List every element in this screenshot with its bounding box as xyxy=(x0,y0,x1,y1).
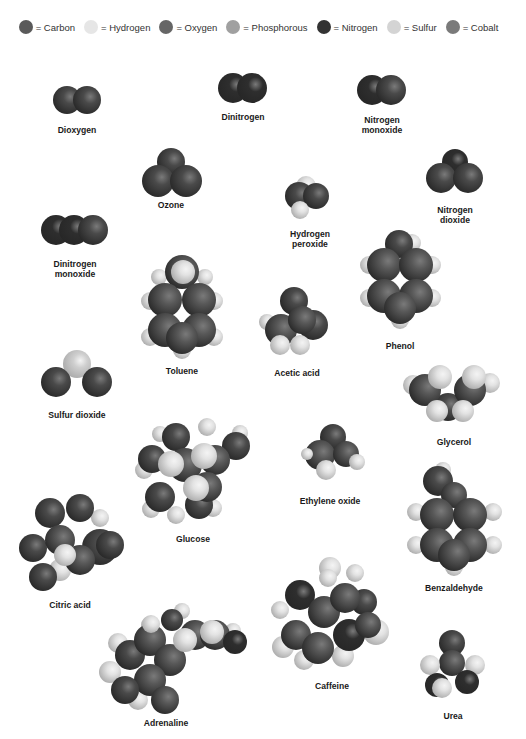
hydrogen-atom-icon xyxy=(349,454,365,470)
nitrogen-atom-icon xyxy=(237,73,267,103)
hydrogen-atom-icon xyxy=(151,269,167,285)
molecule-acetic-acid xyxy=(259,287,328,355)
hydrogen-atom-icon xyxy=(173,628,197,652)
oxygen-atom-icon xyxy=(453,163,483,193)
molecule-glucose xyxy=(135,418,250,524)
molecule-label: Nitrogen monoxide xyxy=(362,115,403,135)
hydrogen-atom-icon xyxy=(462,365,486,389)
molecule-label: Toluene xyxy=(166,366,198,376)
molecule-nitrogen-monoxide xyxy=(357,75,406,105)
molecule-label: Adrenaline xyxy=(144,718,188,728)
oxygen-atom-icon xyxy=(82,367,112,397)
hydrogen-atom-icon xyxy=(171,260,195,284)
carbon-atom-icon xyxy=(355,612,381,638)
molecules-svg xyxy=(0,0,526,739)
oxygen-atom-icon xyxy=(111,676,139,704)
oxygen-atom-icon xyxy=(41,367,71,397)
carbon-atom-icon xyxy=(420,498,454,532)
oxygen-atom-icon xyxy=(96,531,124,559)
carbon-atom-icon xyxy=(166,322,198,354)
molecule-label: Acetic acid xyxy=(274,368,319,378)
hydrogen-atom-icon xyxy=(420,655,440,675)
molecule-dinitrogen xyxy=(218,73,267,103)
hydrogen-atom-icon xyxy=(198,418,216,436)
hydrogen-atom-icon xyxy=(54,544,76,566)
molecule-citric-acid xyxy=(19,494,124,591)
oxygen-atom-icon xyxy=(426,163,456,193)
molecule-label: Benzaldehyde xyxy=(425,583,483,593)
carbon-atom-icon xyxy=(148,283,182,317)
oxygen-atom-icon xyxy=(35,498,65,528)
carbon-atom-icon xyxy=(384,292,416,324)
hydrogen-atom-icon xyxy=(316,460,336,480)
oxygen-atom-icon xyxy=(162,423,190,451)
carbon-atom-icon xyxy=(367,248,401,282)
oxygen-atom-icon xyxy=(29,563,57,591)
oxygen-atom-icon xyxy=(145,482,175,512)
molecule-label: Glucose xyxy=(176,534,210,544)
hydrogen-atom-icon xyxy=(158,451,184,477)
hydrogen-atom-icon xyxy=(142,615,160,633)
oxygen-atom-icon xyxy=(170,165,202,197)
oxygen-atom-icon xyxy=(376,75,406,105)
molecule-caffeine xyxy=(271,557,389,670)
molecule-label: Caffeine xyxy=(315,681,349,691)
oxygen-atom-icon xyxy=(142,165,174,197)
molecule-sulfur-dioxide xyxy=(41,350,112,397)
hydrogen-atom-icon xyxy=(301,448,313,460)
oxygen-atom-icon xyxy=(19,534,47,562)
molecule-ozone xyxy=(142,148,202,197)
oxygen-atom-icon xyxy=(78,215,108,245)
hydrogen-atom-icon xyxy=(426,400,448,422)
molecule-benzaldehyde xyxy=(407,462,502,576)
carbon-atom-icon xyxy=(151,686,179,714)
molecule-dioxygen xyxy=(53,86,101,114)
molecule-urea xyxy=(420,630,485,698)
molecule-phenol xyxy=(360,230,441,329)
hydrogen-atom-icon xyxy=(197,269,213,285)
oxygen-atom-icon xyxy=(73,86,101,114)
nitrogen-atom-icon xyxy=(455,670,479,694)
hydrogen-atom-icon xyxy=(191,443,217,469)
hydrogen-atom-icon xyxy=(432,678,452,698)
hydrogen-atom-icon xyxy=(183,475,209,501)
hydrogen-atom-icon xyxy=(167,506,185,524)
molecule-label: Dioxygen xyxy=(58,125,97,135)
hydrogen-atom-icon xyxy=(200,620,224,644)
molecule-nitrogen-dioxide xyxy=(426,149,483,193)
hydrogen-atom-icon xyxy=(319,569,337,587)
molecule-label: Urea xyxy=(443,711,462,721)
carbon-atom-icon xyxy=(453,498,487,532)
molecule-dinitrogen-monoxide xyxy=(41,215,108,245)
hydrogen-atom-icon xyxy=(291,201,309,219)
molecule-toluene xyxy=(141,255,223,359)
molecule-label: Ethylene oxide xyxy=(300,496,361,506)
carbon-atom-icon xyxy=(399,248,433,282)
hydrogen-atom-icon xyxy=(290,335,310,355)
molecule-label: Dinitrogen monoxide xyxy=(54,259,97,279)
carbon-atom-icon xyxy=(330,583,360,613)
hydrogen-atom-icon xyxy=(91,509,109,527)
molecule-adrenaline xyxy=(99,603,247,714)
hydrogen-atom-icon xyxy=(346,564,364,582)
oxygen-atom-icon xyxy=(161,609,183,631)
molecule-hydrogen-peroxide xyxy=(285,176,329,219)
molecule-label: Nitrogen dioxide xyxy=(437,205,472,225)
carbon-atom-icon xyxy=(302,632,334,664)
molecule-label: Glycerol xyxy=(437,437,471,447)
hydrogen-atom-icon xyxy=(271,601,289,619)
hydrogen-atom-icon xyxy=(428,365,452,389)
molecule-label: Phenol xyxy=(386,341,415,351)
nitrogen-atom-icon xyxy=(223,630,247,654)
molecule-label: Sulfur dioxide xyxy=(48,410,105,420)
hydrogen-atom-icon xyxy=(270,335,290,355)
molecule-label: Ozone xyxy=(158,200,184,210)
carbon-atom-icon xyxy=(438,539,470,571)
molecule-label: Hydrogen peroxide xyxy=(290,229,330,249)
carbon-atom-icon xyxy=(182,283,216,317)
molecule-label: Citric acid xyxy=(49,600,91,610)
hydrogen-atom-icon xyxy=(452,400,474,422)
molecule-glycerol xyxy=(403,365,500,422)
oxygen-atom-icon xyxy=(66,494,94,522)
molecule-label: Dinitrogen xyxy=(222,112,265,122)
